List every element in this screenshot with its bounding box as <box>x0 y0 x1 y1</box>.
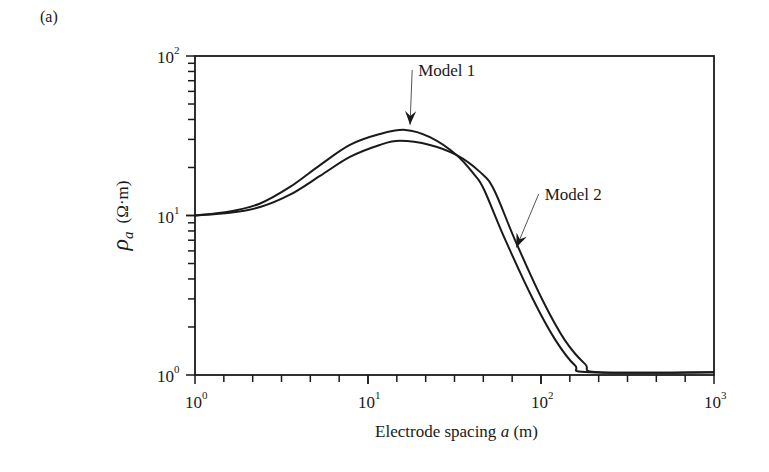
x-tick-label: 100 <box>185 389 208 412</box>
x-tick-label: 102 <box>531 389 554 412</box>
curve-model-1 <box>195 130 714 373</box>
annotation-label: Model 2 <box>545 185 602 204</box>
y-axis-title: ρa(Ω·m) <box>107 181 136 252</box>
plot-frame <box>195 56 714 375</box>
y-tick-label: 102 <box>157 44 180 67</box>
plot-border <box>195 56 714 375</box>
annotation-label: Model 1 <box>418 61 475 80</box>
y-tick-label: 100 <box>157 363 180 386</box>
arrow-annotations: Model 1Model 2 <box>405 61 602 248</box>
x-axis-title: Electrode spacing a (m) <box>375 422 538 441</box>
axis-labels: 100101102103100101102Electrode spacing a… <box>107 44 727 441</box>
y-tick-label: 101 <box>157 204 180 227</box>
x-tick-label: 101 <box>358 389 381 412</box>
axis-ticks <box>186 56 714 384</box>
x-tick-label: 103 <box>704 389 727 412</box>
curve-model-2 <box>195 141 714 373</box>
data-curves <box>195 130 714 373</box>
log-log-line-chart: Model 1Model 2 100101102103100101102Elec… <box>0 0 769 472</box>
